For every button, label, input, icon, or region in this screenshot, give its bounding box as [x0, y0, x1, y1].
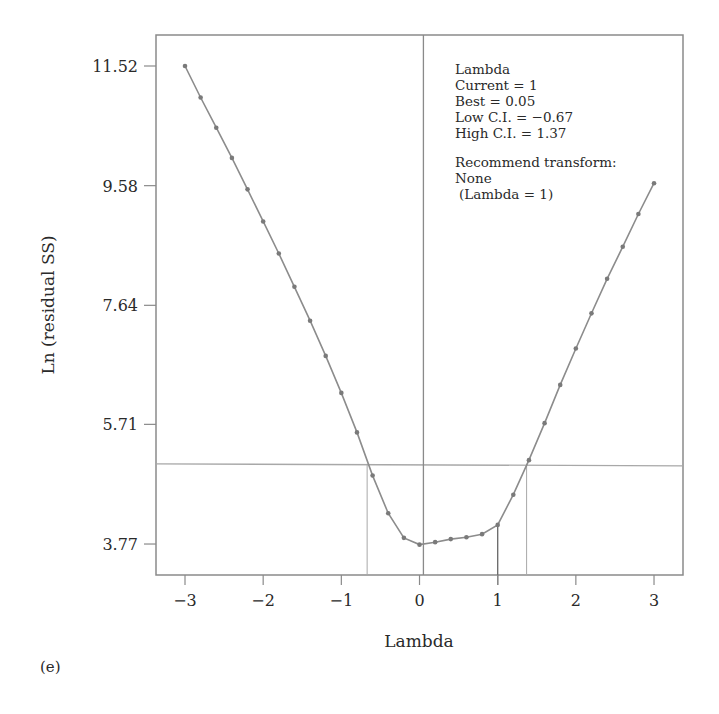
info-transform-lambda: (Lambda = 1): [459, 186, 553, 202]
info-current: Current = 1: [455, 77, 538, 93]
x-tick-label: −1: [330, 591, 354, 610]
data-point: [620, 244, 625, 249]
data-point: [370, 473, 375, 478]
y-tick-label: 11.52: [92, 57, 138, 76]
info-low-ci: Low C.I. = −0.67: [455, 109, 573, 125]
data-point: [605, 276, 610, 281]
y-tick-label: 9.58: [102, 177, 138, 196]
plot-frame: [156, 35, 683, 575]
x-tick-label: 0: [414, 591, 424, 610]
x-tick-label: 1: [493, 591, 503, 610]
info-high-ci: High C.I. = 1.37: [455, 125, 566, 141]
data-point: [198, 95, 203, 100]
x-tick-label: −3: [173, 591, 197, 610]
data-point: [636, 212, 641, 217]
data-point: [323, 354, 328, 359]
y-tick-label: 3.77: [102, 535, 138, 554]
data-point: [214, 125, 219, 130]
x-tick-label: −2: [251, 591, 275, 610]
panel-label: (e): [40, 658, 61, 676]
data-point: [542, 421, 547, 426]
y-axis-title: Ln (residual SS): [38, 235, 58, 374]
data-point: [652, 181, 657, 186]
data-point: [277, 251, 282, 256]
y-tick-label: 7.64: [102, 296, 138, 315]
data-point: [527, 458, 532, 463]
data-point: [433, 540, 438, 545]
data-point: [589, 311, 594, 316]
data-point: [511, 492, 516, 497]
data-point: [355, 430, 360, 435]
data-point: [308, 318, 313, 323]
info-box: Lambda Current = 1 Best = 0.05 Low C.I. …: [455, 61, 617, 202]
data-point: [574, 346, 579, 351]
info-best: Best = 0.05: [455, 93, 535, 109]
data-point: [339, 391, 344, 396]
data-point: [402, 536, 407, 541]
data-point: [230, 156, 235, 161]
reference-lines: [156, 35, 683, 585]
data-point: [558, 383, 563, 388]
x-tick-label: 3: [649, 591, 659, 610]
info-heading: Lambda: [455, 61, 510, 77]
x-tick-label: 2: [571, 591, 581, 610]
data-point: [464, 535, 469, 540]
data-point: [480, 532, 485, 537]
data-series: [183, 64, 657, 547]
y-axis: 3.775.717.649.5811.52: [92, 57, 156, 554]
data-point: [417, 542, 422, 547]
data-point: [448, 537, 453, 542]
ci-threshold-line: [156, 464, 683, 466]
data-point: [495, 523, 500, 528]
info-recommend: Recommend transform:: [455, 154, 617, 170]
info-transform: None: [455, 170, 492, 186]
box-cox-plot: 3.775.717.649.5811.52 −3−2−10123 Lambda …: [0, 0, 719, 714]
data-point: [183, 64, 188, 69]
data-point: [261, 219, 266, 224]
curve-line: [185, 66, 654, 545]
data-point: [245, 187, 250, 192]
data-point: [386, 511, 391, 516]
y-tick-label: 5.71: [102, 415, 138, 434]
x-axis-title: Lambda: [384, 631, 453, 651]
x-axis: −3−2−10123: [173, 575, 659, 610]
data-point: [292, 285, 297, 290]
